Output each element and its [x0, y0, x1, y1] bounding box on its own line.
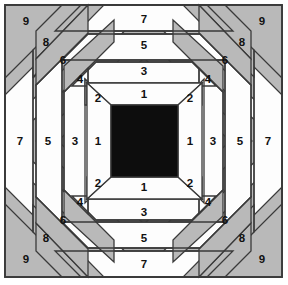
label-top-right-4: 4	[205, 73, 212, 85]
label-bottom-left-6: 6	[60, 214, 66, 226]
label-right-3: 3	[210, 135, 216, 147]
label-right-5: 5	[237, 135, 244, 147]
label-top-right-2: 2	[187, 92, 193, 104]
label-right-1: 1	[187, 135, 194, 147]
label-top-left-8: 8	[43, 36, 50, 48]
label-bottom-5: 5	[141, 232, 148, 244]
label-left-3: 3	[72, 135, 78, 147]
label-bottom-left-2: 2	[95, 177, 101, 189]
label-bottom-1: 1	[141, 181, 148, 193]
label-top-left-6: 6	[60, 54, 66, 66]
center-square	[111, 105, 178, 177]
label-left-5: 5	[45, 135, 52, 147]
label-left-7: 7	[17, 135, 23, 147]
label-top-1: 1	[141, 88, 148, 100]
label-bottom-3: 3	[141, 206, 147, 218]
label-bottom-right-8: 8	[239, 232, 246, 244]
label-top-right-9: 9	[259, 15, 265, 27]
label-top-5: 5	[141, 39, 148, 51]
label-top-left-4: 4	[77, 73, 84, 85]
quilt-block-figure: 1 3 5 7 1 3 5 7 1 3 5 7 1 3 5 7 2 4 6 8 …	[0, 0, 288, 285]
label-top-right-8: 8	[239, 36, 246, 48]
label-bottom-left-9: 9	[23, 253, 29, 265]
label-top-left-9: 9	[23, 15, 29, 27]
label-bottom-left-4: 4	[77, 196, 84, 208]
label-top-3: 3	[141, 65, 147, 77]
quilt-block-svg: 1 3 5 7 1 3 5 7 1 3 5 7 1 3 5 7 2 4 6 8 …	[0, 0, 288, 285]
label-right-7: 7	[265, 135, 271, 147]
label-bottom-right-2: 2	[187, 177, 193, 189]
label-bottom-left-8: 8	[43, 232, 50, 244]
label-top-left-2: 2	[95, 92, 101, 104]
label-bottom-7: 7	[141, 258, 147, 270]
label-top-right-6: 6	[222, 54, 228, 66]
label-bottom-right-6: 6	[222, 214, 228, 226]
label-bottom-right-4: 4	[205, 196, 212, 208]
label-top-7: 7	[141, 13, 147, 25]
label-left-1: 1	[95, 135, 102, 147]
label-bottom-right-9: 9	[259, 253, 265, 265]
